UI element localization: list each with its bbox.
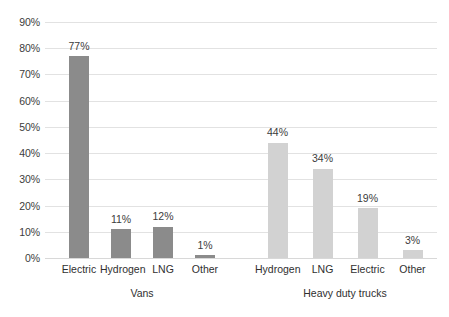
x-axis-group-label: Vans	[58, 288, 226, 299]
bar-value-label: 11%	[111, 214, 131, 225]
x-axis-category-label: LNG	[142, 264, 184, 275]
bar-value-label: 19%	[357, 193, 378, 204]
bar-slot: 19%	[345, 22, 390, 258]
y-axis-tick-label: 20%	[0, 201, 40, 212]
bar-slot: 77%	[58, 22, 100, 258]
x-axis-category-label: Other	[390, 264, 435, 275]
y-axis-tick-label: 40%	[0, 148, 40, 159]
plot-area: 77%11%12%1%44%34%19%3%	[45, 22, 437, 258]
bar-value-label: 1%	[197, 240, 212, 251]
bar-slot: 3%	[390, 22, 435, 258]
bar[interactable]	[153, 227, 173, 258]
x-axis-category-label: LNG	[300, 264, 345, 275]
bar-slot: 11%	[100, 22, 142, 258]
y-axis-tick-label: 90%	[0, 17, 40, 28]
y-axis-tick-label: 70%	[0, 69, 40, 80]
bar[interactable]	[69, 56, 89, 258]
y-axis-tick-label: 60%	[0, 96, 40, 107]
y-axis: 90%80%70%60%50%40%30%20%10%0%	[0, 0, 40, 317]
x-axis-category-label: Electric	[345, 264, 390, 275]
x-axis-category-label: Hydrogen	[255, 264, 300, 275]
axis-baseline	[45, 258, 437, 259]
bar[interactable]	[358, 208, 378, 258]
bar-slot: 34%	[300, 22, 345, 258]
bar-value-label: 3%	[405, 235, 420, 246]
bar-slot: 12%	[142, 22, 184, 258]
bar-value-label: 12%	[152, 211, 173, 222]
bar[interactable]	[403, 250, 423, 258]
y-axis-tick-label: 50%	[0, 122, 40, 133]
bar[interactable]	[268, 143, 288, 258]
bar-slot: 1%	[184, 22, 226, 258]
x-axis-category-label: Hydrogen	[100, 264, 142, 275]
bar-value-label: 44%	[267, 127, 288, 138]
x-axis-group-label: Heavy duty trucks	[255, 288, 435, 299]
bar-value-label: 34%	[312, 153, 333, 164]
y-axis-tick-label: 0%	[0, 253, 40, 264]
y-axis-tick-label: 10%	[0, 227, 40, 238]
x-axis-category-label: Other	[184, 264, 226, 275]
bar-value-label: 77%	[68, 41, 89, 52]
y-axis-tick-label: 80%	[0, 43, 40, 54]
y-axis-tick-label: 30%	[0, 174, 40, 185]
bar-chart: 90%80%70%60%50%40%30%20%10%0% 77%11%12%1…	[0, 0, 449, 317]
bar-slot: 44%	[255, 22, 300, 258]
x-axis-category-label: Electric	[58, 264, 100, 275]
bar[interactable]	[195, 255, 215, 258]
bar[interactable]	[111, 229, 131, 258]
bar[interactable]	[313, 169, 333, 258]
